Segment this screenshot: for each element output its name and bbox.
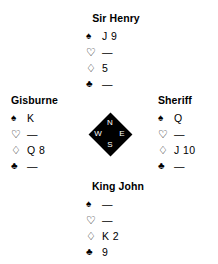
spade-icon: ♠ — [158, 110, 174, 126]
hand-north-hearts-row: ♡ — — [76, 44, 156, 60]
hand-south-diamonds: K 2 — [102, 228, 119, 244]
hand-south-hearts-row: ♡ — — [76, 212, 160, 228]
hand-west-hearts: — — [27, 126, 38, 142]
heart-icon: ♡ — [86, 44, 102, 60]
compass-south-label: S — [105, 141, 115, 149]
hand-south-clubs-row: ♣ 9 — [76, 244, 160, 260]
hand-north: Sir Henry ♠ J 9 ♡ — ♢ 5 ♣ — — [76, 12, 156, 92]
club-icon: ♣ — [11, 158, 27, 174]
hand-west-hearts-row: ♡ — — [11, 126, 91, 142]
club-icon: ♣ — [158, 158, 174, 174]
hand-north-clubs: — — [102, 76, 113, 92]
spade-icon: ♠ — [86, 28, 102, 44]
hand-west: Gisburne ♠ K ♡ — ♢ Q 8 ♣ — — [11, 94, 91, 174]
hand-north-diamonds-row: ♢ 5 — [76, 60, 156, 76]
heart-icon: ♡ — [11, 126, 27, 142]
hand-east: Sheriff ♠ Q ♡ — ♢ J 10 ♣ — — [158, 94, 218, 174]
hand-west-spades-row: ♠ K — [11, 110, 91, 126]
hand-south-hearts: — — [102, 212, 113, 228]
hand-south-clubs: 9 — [102, 244, 108, 260]
hand-west-clubs: — — [27, 158, 38, 174]
compass-west-label: W — [93, 130, 103, 138]
club-icon: ♣ — [86, 76, 102, 92]
hand-north-title: Sir Henry — [76, 12, 156, 25]
hand-west-diamonds: Q 8 — [27, 142, 45, 158]
hand-east-clubs-row: ♣ — — [158, 158, 218, 174]
hand-north-hearts: — — [102, 44, 113, 60]
hand-west-diamonds-row: ♢ Q 8 — [11, 142, 91, 158]
hand-north-diamonds: 5 — [102, 60, 108, 76]
hand-east-hearts-row: ♡ — — [158, 126, 218, 142]
hand-east-spades-row: ♠ Q — [158, 110, 218, 126]
hand-east-clubs: — — [174, 158, 185, 174]
hand-south-spades: — — [102, 196, 113, 212]
diamond-icon: ♢ — [11, 142, 27, 158]
heart-icon: ♡ — [86, 212, 102, 228]
hand-north-spades-row: ♠ J 9 — [76, 28, 156, 44]
hand-east-title: Sheriff — [158, 94, 218, 107]
hand-east-diamonds-row: ♢ J 10 — [158, 142, 218, 158]
diamond-icon: ♢ — [86, 60, 102, 76]
compass-rose: N W E S — [88, 112, 132, 156]
hand-south-spades-row: ♠ — — [76, 196, 160, 212]
hand-east-hearts: — — [174, 126, 185, 142]
hand-east-spades: Q — [174, 110, 183, 126]
spade-icon: ♠ — [11, 110, 27, 126]
hand-west-clubs-row: ♣ — — [11, 158, 91, 174]
hand-west-title: Gisburne — [11, 94, 91, 107]
compass-east-label: E — [117, 130, 127, 138]
club-icon: ♣ — [86, 244, 102, 260]
compass-north-label: N — [105, 119, 115, 127]
heart-icon: ♡ — [158, 126, 174, 142]
hand-south-diamonds-row: ♢ K 2 — [76, 228, 160, 244]
hand-north-spades: J 9 — [102, 28, 117, 44]
spade-icon: ♠ — [86, 196, 102, 212]
hand-west-spades: K — [27, 110, 34, 126]
diamond-icon: ♢ — [86, 228, 102, 244]
diamond-icon: ♢ — [158, 142, 174, 158]
hand-south-title: King John — [76, 180, 160, 193]
hand-north-clubs-row: ♣ — — [76, 76, 156, 92]
hand-east-diamonds: J 10 — [174, 142, 195, 158]
hand-south: King John ♠ — ♡ — ♢ K 2 ♣ 9 — [76, 180, 160, 260]
